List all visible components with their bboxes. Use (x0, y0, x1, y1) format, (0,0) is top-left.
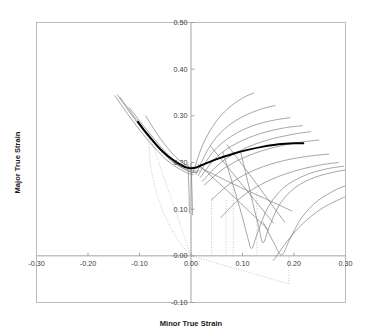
y-tick-label: -0.10 (171, 298, 187, 307)
y-tick-label: 0.20 (174, 158, 188, 167)
forming-limit-diagram: -0.30-0.20-0.100.000.100.200.30-0.100.00… (0, 0, 368, 336)
x-tick-label: 0.00 (184, 259, 198, 268)
y-tick-label: 0.40 (174, 65, 188, 74)
x-tick-label: -0.20 (80, 259, 96, 268)
y-tick-label: 0.30 (174, 111, 188, 120)
figure-root: -0.30-0.20-0.100.000.100.200.30-0.100.00… (0, 0, 368, 336)
y-tick-label: 0.00 (174, 251, 188, 260)
y-axis-title: Major True Strain (13, 131, 22, 193)
x-tick-label: 0.20 (287, 259, 301, 268)
y-tick-label: 0.10 (174, 205, 188, 214)
x-tick-label: 0.10 (236, 259, 250, 268)
x-axis-title: Minor True Strain (160, 319, 223, 328)
x-tick-label: -0.30 (28, 259, 44, 268)
canvas-background (0, 0, 368, 336)
y-tick-label: 0.50 (174, 18, 188, 27)
x-tick-label: -0.10 (131, 259, 147, 268)
x-tick-label: 0.30 (339, 259, 353, 268)
